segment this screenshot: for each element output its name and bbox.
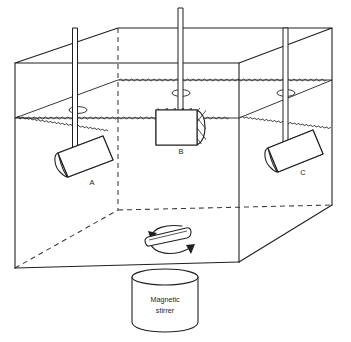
tank-hidden-bottom-left-edge xyxy=(15,210,118,268)
basket-b-label: B xyxy=(178,147,183,156)
basket-a-label: A xyxy=(89,178,94,187)
stirrer-label-line-1: Magnetic xyxy=(150,295,180,304)
tank-hidden-bottom-back-edge xyxy=(118,205,332,210)
rod-b xyxy=(178,8,183,114)
water-line-back xyxy=(15,80,118,118)
basket-c-label: C xyxy=(300,168,306,177)
stirrer-label-line-2: stirrer xyxy=(156,306,175,315)
rod-c xyxy=(283,28,288,142)
stirrer-top-ellipse xyxy=(132,269,198,285)
rod-b-shaft xyxy=(178,8,183,114)
rod-a-shaft xyxy=(73,28,78,152)
magnetic-stir-bar-group xyxy=(145,225,195,254)
rod-c-shaft xyxy=(283,28,288,142)
basket-a-outline-top xyxy=(58,136,113,177)
figure-root: A B xyxy=(0,0,351,342)
tank-bottom-front-edge xyxy=(15,262,239,268)
basket-a: A xyxy=(40,114,126,210)
magnetic-stirrer-unit: Magnetic stirrer xyxy=(132,269,198,332)
stir-bar xyxy=(145,228,191,246)
basket-b-outline-top xyxy=(156,110,197,145)
basket-c-outline-top xyxy=(268,130,323,172)
rod-a xyxy=(73,28,78,152)
dissolution-tank-diagram: A B xyxy=(0,0,351,342)
water-texture-back-horizontal xyxy=(119,79,326,81)
tank-bottom-right-edge xyxy=(239,205,332,262)
